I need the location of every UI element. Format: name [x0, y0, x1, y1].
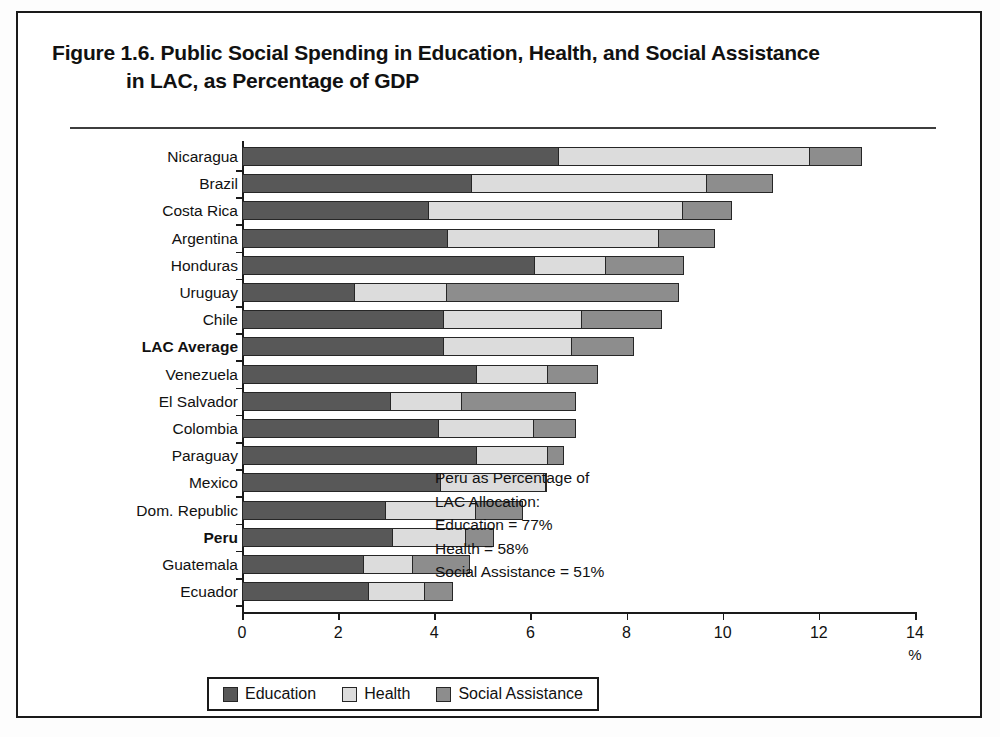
bar-segment[interactable]	[428, 201, 683, 220]
x-axis-tick-label: 2	[334, 624, 343, 642]
bar-segment[interactable]	[242, 229, 449, 248]
bar-segment[interactable]	[242, 201, 429, 220]
bar-segment[interactable]	[547, 365, 597, 384]
bar-segment[interactable]	[390, 392, 462, 411]
bar-row[interactable]	[242, 446, 564, 465]
bar-row[interactable]	[242, 419, 576, 438]
bar-segment[interactable]	[443, 310, 582, 329]
y-axis-label: Venezuela	[52, 366, 238, 384]
bar-row[interactable]	[242, 201, 732, 220]
x-axis-tick-label: 8	[622, 624, 631, 642]
bar-row[interactable]	[242, 229, 715, 248]
annotation-line-1: Peru as Percentage of	[435, 466, 604, 490]
bar-segment[interactable]	[354, 283, 448, 302]
bar-segment[interactable]	[476, 446, 548, 465]
x-axis-tick-label: 14	[906, 624, 924, 642]
x-axis-tick-label: 10	[714, 624, 732, 642]
legend-swatch-icon	[223, 687, 238, 702]
bar-segment[interactable]	[471, 174, 707, 193]
bar-segment[interactable]	[242, 528, 393, 547]
bar-segment[interactable]	[581, 310, 663, 329]
bar-segment[interactable]	[368, 582, 426, 601]
title-divider	[70, 127, 936, 129]
x-axis-tick-label: 4	[430, 624, 439, 642]
y-axis-tick	[236, 578, 243, 580]
legend-swatch-icon	[342, 687, 357, 702]
annotation-line-3: Education = 77%	[435, 513, 604, 537]
bar-row[interactable]	[242, 256, 684, 275]
bar-segment[interactable]	[446, 283, 679, 302]
bar-segment[interactable]	[533, 419, 576, 438]
bar-segment[interactable]	[558, 147, 810, 166]
legend-item[interactable]: Health	[342, 685, 410, 703]
bar-segment[interactable]	[242, 392, 391, 411]
bar-segment[interactable]	[461, 392, 576, 411]
bar-segment[interactable]	[242, 446, 478, 465]
bar-row[interactable]	[242, 392, 576, 411]
bar-segment[interactable]	[242, 555, 365, 574]
chart-legend: EducationHealthSocial Assistance	[207, 677, 599, 711]
bar-segment[interactable]	[242, 174, 473, 193]
y-axis-label: Guatemala	[52, 556, 238, 574]
annotation-line-4: Health = 58%	[435, 537, 604, 561]
y-axis-label: El Salvador	[52, 393, 238, 411]
bar-segment[interactable]	[242, 283, 355, 302]
bar-row[interactable]	[242, 174, 773, 193]
bar-segment[interactable]	[658, 229, 716, 248]
legend-item[interactable]: Education	[223, 685, 316, 703]
bar-segment[interactable]	[242, 582, 369, 601]
bar-segment[interactable]	[809, 147, 862, 166]
bar-row[interactable]	[242, 582, 453, 601]
bar-segment[interactable]	[605, 256, 684, 275]
bar-row[interactable]	[242, 147, 862, 166]
y-axis-label: Uruguay	[52, 284, 238, 302]
bar-segment[interactable]	[242, 310, 444, 329]
bar-segment[interactable]	[242, 147, 559, 166]
x-axis-unit-label: %	[908, 646, 921, 663]
bar-row[interactable]	[242, 310, 662, 329]
y-axis-tick	[236, 469, 243, 471]
y-axis-tick	[236, 252, 243, 254]
x-axis-tick	[723, 612, 725, 620]
bar-segment[interactable]	[438, 419, 534, 438]
y-axis-label: Paraguay	[52, 447, 238, 465]
figure-frame: Figure 1.6. Public Social Spending in Ed…	[16, 11, 982, 718]
bar-row[interactable]	[242, 283, 679, 302]
bar-segment[interactable]	[242, 473, 441, 492]
bar-segment[interactable]	[571, 337, 633, 356]
bar-segment[interactable]	[424, 582, 453, 601]
x-axis-tick	[434, 612, 436, 620]
bar-segment[interactable]	[534, 256, 606, 275]
bar-segment[interactable]	[476, 365, 548, 384]
x-axis-tick	[242, 612, 244, 620]
x-axis-tick-label: 6	[526, 624, 535, 642]
bar-segment[interactable]	[242, 337, 444, 356]
bar-segment[interactable]	[242, 419, 439, 438]
bar-segment[interactable]	[242, 365, 478, 384]
y-axis-label: Peru	[52, 529, 238, 547]
y-axis-tick	[236, 360, 243, 362]
bar-segment[interactable]	[447, 229, 659, 248]
y-axis-tick	[236, 605, 243, 607]
bar-segment[interactable]	[242, 256, 535, 275]
bar-row[interactable]	[242, 365, 598, 384]
figure-page: Figure 1.6. Public Social Spending in Ed…	[0, 0, 1000, 737]
bar-segment[interactable]	[443, 337, 573, 356]
y-axis-label: Costa Rica	[52, 202, 238, 220]
y-axis-tick	[236, 524, 243, 526]
bar-segment[interactable]	[682, 201, 732, 220]
figure-body: Figure 1.6. Public Social Spending in Ed…	[52, 39, 952, 689]
bar-segment[interactable]	[363, 555, 413, 574]
legend-item[interactable]: Social Assistance	[436, 685, 583, 703]
legend-label: Education	[245, 685, 316, 703]
legend-label: Social Assistance	[458, 685, 583, 703]
bar-segment[interactable]	[547, 446, 564, 465]
legend-label: Health	[364, 685, 410, 703]
y-axis-tick	[236, 306, 243, 308]
x-axis-tick	[819, 612, 821, 620]
x-axis-tick-label: 12	[810, 624, 828, 642]
bar-segment[interactable]	[242, 501, 386, 520]
x-axis-tick	[530, 612, 532, 620]
bar-row[interactable]	[242, 337, 634, 356]
bar-segment[interactable]	[706, 174, 773, 193]
